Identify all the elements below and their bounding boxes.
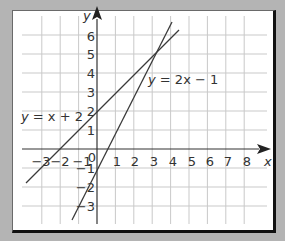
eq2-rhs: = 2x − 1 xyxy=(156,72,219,87)
x-tick: 7 xyxy=(224,154,232,169)
x-tick: 5 xyxy=(188,154,196,169)
y-axis-arrow-icon xyxy=(92,6,102,20)
y-tick: −2 xyxy=(76,180,95,195)
y-tick: 6 xyxy=(87,29,95,44)
x-tick: 8 xyxy=(243,154,251,169)
x-tick: −2 xyxy=(50,154,69,169)
y-tick: 5 xyxy=(87,47,95,62)
equation-label-y-2x-minus-1: y = 2x − 1 xyxy=(147,72,218,87)
x-tick: 6 xyxy=(206,154,214,169)
y-tick: 3 xyxy=(87,85,95,100)
y-tick: 1 xyxy=(87,123,95,138)
y-tick: −1 xyxy=(76,161,95,176)
x-tick: 1 xyxy=(113,154,121,169)
y-tick: 2 xyxy=(87,104,95,119)
x-tick: 4 xyxy=(169,154,177,169)
x-axis-label: x xyxy=(263,154,272,169)
equation-label-y-x-plus-2: y = x + 2 xyxy=(20,109,83,124)
y-tick: 4 xyxy=(87,66,95,81)
eq2-lhs: y xyxy=(147,72,156,87)
x-tick-labels: −3 −2 −1 0 1 2 3 4 5 6 7 8 xyxy=(31,150,251,169)
x-axis-arrow-icon xyxy=(257,144,271,154)
coordinate-plane: x y −3 −2 −1 0 1 2 3 4 5 6 7 8 6 5 4 3 2… xyxy=(0,0,285,241)
x-tick: 2 xyxy=(131,154,139,169)
x-tick: 3 xyxy=(150,154,158,169)
y-axis-label: y xyxy=(82,8,91,23)
eq1-lhs: y xyxy=(20,109,29,124)
eq1-rhs: = x + 2 xyxy=(29,109,83,124)
x-tick: −3 xyxy=(31,154,50,169)
y-tick: −3 xyxy=(76,199,95,214)
